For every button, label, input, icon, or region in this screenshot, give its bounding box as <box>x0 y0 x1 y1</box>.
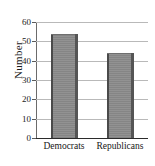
y-axis-tick <box>32 80 36 81</box>
y-axis-tick <box>32 41 36 42</box>
y-axis-tick <box>32 61 36 62</box>
y-axis-tick-label: 30 <box>22 75 31 85</box>
y-axis-tick-label: 60 <box>22 17 31 27</box>
bar-democrats <box>51 34 78 138</box>
plot-area: 0102030405060 <box>36 22 148 138</box>
y-axis-tick-label: 50 <box>22 36 31 46</box>
y-axis-tick-label: 20 <box>22 94 31 104</box>
y-axis-tick <box>32 22 36 23</box>
y-axis-tick-label: 10 <box>22 114 31 124</box>
y-axis-tick <box>32 99 36 100</box>
bar-republicans <box>107 53 134 138</box>
y-axis-tick <box>32 119 36 120</box>
bar-chart-figure: Number 0102030405060 DemocratsRepublican… <box>0 0 155 166</box>
gridline <box>36 22 148 23</box>
y-axis-tick <box>32 138 36 139</box>
x-axis-baseline <box>36 138 148 139</box>
x-axis-label-republicans: Republicans <box>80 141 155 151</box>
y-axis-tick-label: 40 <box>22 56 31 66</box>
